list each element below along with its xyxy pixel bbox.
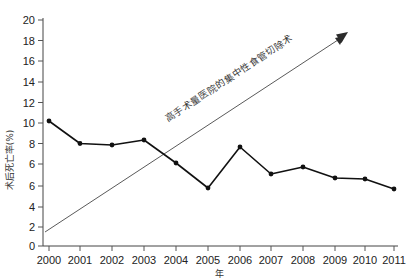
- x-tick-label: 2003: [132, 254, 156, 266]
- x-tick-label: 2007: [259, 254, 283, 266]
- y-tick-label: 4: [29, 201, 35, 213]
- x-tick-label: 2006: [228, 254, 252, 266]
- data-point: [78, 141, 83, 146]
- data-point: [301, 165, 306, 170]
- data-point: [333, 176, 338, 181]
- data-point: [142, 138, 147, 143]
- x-tick-label: 2002: [100, 254, 124, 266]
- y-tick-label: 2: [29, 221, 35, 233]
- data-point: [47, 119, 52, 124]
- y-tick-label: 6: [29, 180, 35, 192]
- data-point: [206, 186, 211, 191]
- x-tick-label: 2009: [323, 254, 347, 266]
- data-point: [238, 145, 243, 150]
- mortality-trend-chart: 术后死亡率(%) 20 18 16 14 12 10 8 6 6: [0, 0, 406, 278]
- y-tick-label: 14: [23, 76, 35, 88]
- mortality-series-line: [49, 121, 394, 189]
- data-point: [392, 187, 397, 192]
- x-tick-label: 2010: [353, 254, 377, 266]
- y-tick-label: 12: [23, 97, 35, 109]
- chart-container: 术后死亡率(%) 20 18 16 14 12 10 8 6 6: [0, 0, 406, 278]
- y-axis-ticks: 20 18 16 14 12 10 8 6 6 4 2 0: [23, 14, 43, 252]
- x-axis-ticks: 2000 2001 2002 2003 2004 2005 2006 2007 …: [37, 246, 406, 266]
- data-point: [363, 177, 368, 182]
- x-tick-label: 2000: [37, 254, 61, 266]
- mortality-series-markers: [47, 119, 397, 192]
- y-tick-label: 18: [23, 35, 35, 47]
- x-tick-label: 2001: [68, 254, 92, 266]
- trend-annotation-label: 高手术量医院的集中性食管切除术: [163, 32, 295, 123]
- y-tick-label: 10: [23, 117, 35, 129]
- y-tick-label: 6: [29, 158, 35, 170]
- data-point: [110, 143, 115, 148]
- y-tick-label: 20: [23, 14, 35, 26]
- y-tick-label: 0: [29, 240, 35, 252]
- trend-arrow: [45, 32, 348, 232]
- x-tick-label: 2008: [291, 254, 315, 266]
- x-tick-label: 2005: [196, 254, 220, 266]
- y-tick-label: 8: [29, 138, 35, 150]
- y-tick-label: 16: [23, 55, 35, 67]
- x-axis-label: 年: [215, 268, 224, 278]
- y-axis-label: 术后死亡率(%): [4, 130, 15, 191]
- data-point: [269, 172, 274, 177]
- x-tick-label: 2011: [382, 254, 406, 266]
- x-tick-label: 2004: [164, 254, 188, 266]
- data-point: [174, 161, 179, 166]
